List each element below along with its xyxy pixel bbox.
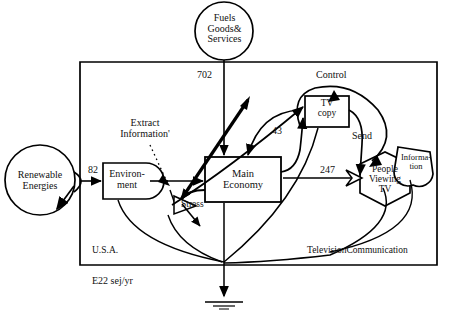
storage-information-label: Informa- tion xyxy=(396,153,436,171)
source-fuels-goods-services-label: Fuels Goods& Services xyxy=(196,13,253,45)
boundary-label-television-communication: TelevisionCommunication xyxy=(307,246,408,256)
diagram-canvas xyxy=(0,0,459,318)
flow-environment-to-ground-arc xyxy=(118,200,224,262)
energy-systems-diagram: Renewable Energies Fuels Goods& Services… xyxy=(0,0,459,318)
flow-value-82: 82 xyxy=(88,165,98,176)
flow-value-702: 702 xyxy=(197,70,212,81)
process-label-send: Send xyxy=(352,131,372,142)
storage-main-economy-label: Main Economy xyxy=(205,168,281,190)
flow-main-economy-to-tv-copy-43 xyxy=(281,118,303,172)
units-note: E22 sej/yr xyxy=(92,276,133,287)
flow-value-247: 247 xyxy=(320,165,335,176)
process-label-stress: Stress xyxy=(181,200,204,210)
source-renewable-energies-label: Renewable Energies xyxy=(5,170,75,191)
boundary-label-usa: U.S.A. xyxy=(92,246,118,256)
process-label-control: Control xyxy=(316,70,347,81)
flow-value-43: 43 xyxy=(272,126,282,137)
process-label-extract-information: Extract Information' xyxy=(107,118,183,139)
storage-environment-label: Environ- ment xyxy=(101,169,153,190)
heat-sink-ground-symbol xyxy=(205,262,243,309)
storage-tv-copy-label: TV copy xyxy=(305,99,349,119)
